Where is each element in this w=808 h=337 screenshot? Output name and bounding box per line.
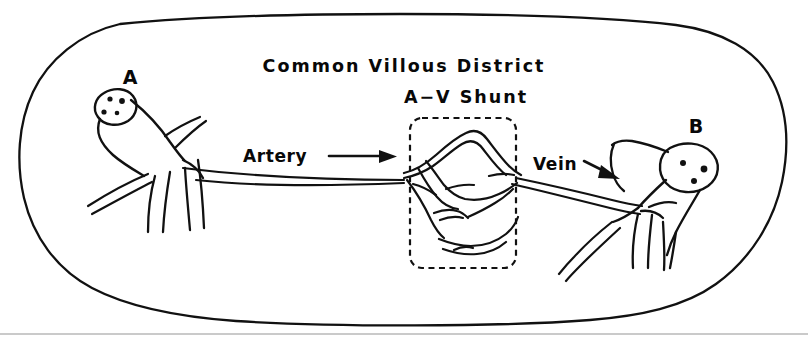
diagram-subtitle: A−V Shunt: [404, 87, 528, 107]
villus-b-leg-right-a: [663, 222, 664, 270]
villus-a-nucleus-4: [115, 111, 120, 116]
artery-label: Artery: [243, 146, 307, 166]
villus-b-nucleus-3: [691, 178, 697, 184]
node-label-b: B: [689, 115, 703, 137]
diagram-title: Common Villous District: [263, 56, 546, 76]
node-label-a: A: [123, 66, 138, 88]
figure-root: Common Villous District A−V Shunt A B: [0, 0, 808, 337]
figure-background: [0, 0, 808, 337]
villus-a-nucleus-3: [101, 109, 106, 114]
villus-a-nucleus-1: [107, 96, 112, 101]
villous-district-diagram: Common Villous District A−V Shunt A B: [0, 0, 808, 337]
villus-a-nucleus-2: [119, 98, 125, 104]
villus-b-nucleus-2: [701, 166, 708, 173]
villus-b-nucleus-1: [680, 160, 686, 166]
vein-label: Vein: [533, 154, 577, 174]
